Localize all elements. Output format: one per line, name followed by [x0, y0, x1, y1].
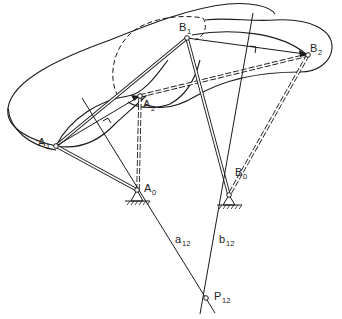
svg-text:0: 0	[243, 172, 247, 181]
svg-text:1: 1	[46, 142, 50, 151]
joint-b1	[185, 36, 190, 41]
lens-lower-curve	[56, 92, 150, 147]
joint-b0	[227, 193, 232, 198]
label-a1: A 1	[38, 136, 50, 151]
joint-a1	[54, 144, 59, 149]
label-a2: A 2	[143, 98, 155, 113]
svg-text:0: 0	[152, 188, 156, 197]
svg-text:B: B	[179, 21, 186, 33]
label-a12: a 12	[175, 233, 190, 248]
joint-a2	[138, 94, 143, 99]
pole-p12	[204, 296, 209, 301]
svg-text:12: 12	[222, 296, 230, 305]
label-b12: b 12	[219, 233, 234, 248]
svg-text:A: A	[143, 98, 151, 110]
mid-normal-a12	[82, 98, 215, 313]
label-a0: A 0	[144, 182, 156, 197]
svg-text:P: P	[214, 290, 221, 302]
coupler-a1-b1-inner	[56, 38, 187, 146]
svg-text:B: B	[310, 42, 317, 54]
label-p12: P 12	[214, 290, 230, 305]
label-b2: B 2	[310, 42, 322, 57]
linkage-diagram: A 1 A 2 A 0 B 1 B 2 B 0 P 12 a 12 b 12	[0, 0, 342, 319]
right-angle-mark-a	[103, 118, 111, 123]
label-b1: B 1	[179, 21, 191, 36]
svg-text:12: 12	[226, 239, 234, 248]
link-a0-a2-inner	[138, 96, 140, 190]
svg-text:b: b	[219, 233, 225, 245]
joint-a0	[135, 188, 140, 193]
svg-text:a: a	[175, 233, 182, 245]
svg-text:1: 1	[187, 27, 191, 36]
svg-text:B: B	[235, 166, 242, 178]
svg-text:12: 12	[182, 239, 190, 248]
svg-text:A: A	[144, 182, 152, 194]
svg-text:2: 2	[151, 104, 155, 113]
link-b0-b1-inner	[187, 38, 229, 195]
coupler-a2-b2-inner	[140, 55, 308, 96]
svg-text:2: 2	[318, 48, 322, 57]
svg-text:A: A	[38, 136, 46, 148]
